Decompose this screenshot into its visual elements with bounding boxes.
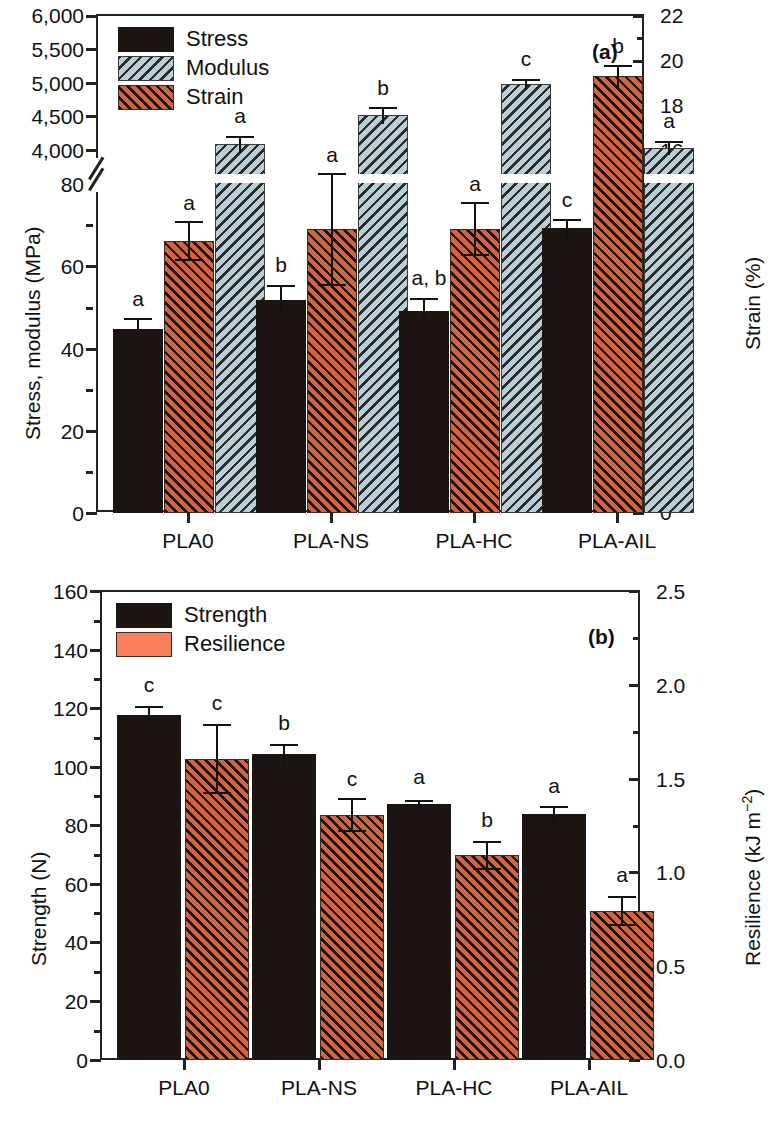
legend-label-strength: Strength <box>184 604 267 626</box>
panel-b-tick-major <box>90 883 101 886</box>
panel-a-axis-break-mark <box>80 158 114 192</box>
panel-b-right-tick-2-5: 2.5 <box>656 581 685 602</box>
errorbar-modulus-pla0 <box>226 136 254 153</box>
panel-b-tick-minor <box>94 620 101 623</box>
panel-b-tick-major <box>90 707 101 710</box>
panel-b-xlabel-plahc: PLA-HC <box>394 1077 514 1098</box>
panel-a-tick-major <box>86 512 97 515</box>
panel-a-xtick <box>187 512 190 523</box>
bar-modulus-plaail <box>644 148 694 513</box>
panel-b-xtick <box>318 1059 321 1070</box>
panel-a-xlabel-plahc: PLA-HC <box>414 530 534 551</box>
panel-b-right-tick-minor <box>633 637 640 640</box>
legend-swatch-strength-icon <box>116 603 172 628</box>
panel-a-tick-minor <box>86 224 93 227</box>
panel-a-left-tick-60: 60 <box>0 256 84 277</box>
panel-a-right-axis-title: Strain (%) <box>742 257 763 350</box>
panel-b-left-tick-40: 40 <box>0 932 88 953</box>
panel-b-tick-major <box>90 766 101 769</box>
panel-b-right-tick-0-0: 0.0 <box>656 1050 685 1071</box>
errorbar-modulus-plaail <box>655 141 683 155</box>
panel-b-right-tick-minor <box>633 731 640 734</box>
bar-strength-plaail <box>522 814 586 1060</box>
panel-b-tag: (b) <box>588 625 615 649</box>
panel-b-tick-major <box>90 824 101 827</box>
panel-b-right-tick-minor <box>633 825 640 828</box>
errorbar-stress-pla0 <box>124 318 152 340</box>
legend-swatch-strain-icon <box>118 85 174 110</box>
legend-label-modulus: Modulus <box>186 57 269 79</box>
panel-a-left-tick-0: 0 <box>0 503 84 524</box>
errorbar-strain-plahc <box>461 202 489 256</box>
errorbar-strain-plans <box>318 173 346 286</box>
bar-stress-plahc <box>399 311 449 513</box>
panel-b-tick-major <box>90 1000 101 1003</box>
panel-a-tick-major <box>86 82 97 85</box>
siglabel-strain-plahc: a <box>445 173 505 194</box>
siglabel-strength-pla0: c <box>119 674 179 695</box>
siglabel-strain-pla0: a <box>159 192 219 213</box>
legend-label-stress: Stress <box>186 28 248 50</box>
siglabel-resilience-plaail: a <box>592 864 652 885</box>
errorbar-resilience-pla0 <box>203 724 231 794</box>
siglabel-modulus-plahc: c <box>496 48 556 69</box>
panel-a-left-tick-5000: 5,000 <box>0 73 84 94</box>
panel-b-left-tick-140: 140 <box>0 640 88 661</box>
bar-strength-pla0 <box>117 715 181 1060</box>
errorbar-strain-plaail <box>604 65 632 87</box>
errorbar-stress-plans <box>267 285 295 313</box>
panel-a-left-tick-40: 40 <box>0 339 84 360</box>
legend-item-strength: Strength <box>116 602 286 628</box>
bar-stress-pla0 <box>113 329 163 513</box>
panel-b-right-axis-title-main: Resilience (kJ m <box>741 812 764 966</box>
panel-a-left-tick-4500: 4,500 <box>0 106 84 127</box>
panel-b: (b) Strength (N) Resilience (kJ m−2) 160… <box>0 566 784 1132</box>
errorbar-strength-pla0 <box>135 706 163 724</box>
panel-b-tick-major <box>90 941 101 944</box>
legend-item-stress: Stress <box>118 26 269 52</box>
panel-b-right-tick-1-0: 1.0 <box>656 862 685 883</box>
bar-strain-pla0 <box>164 241 214 513</box>
bar-resilience-pla0 <box>185 759 249 1060</box>
panel-a-right-tick-major <box>633 15 644 18</box>
errorbar-strain-pla0 <box>175 221 203 261</box>
panel-b-left-tick-0: 0 <box>0 1050 88 1071</box>
panel-a-xlabel-plaail: PLA-AIL <box>557 530 677 551</box>
siglabel-resilience-plahc: b <box>457 809 517 830</box>
panel-a-tick-minor <box>86 471 93 474</box>
siglabel-strength-plaail: a <box>524 775 584 796</box>
panel-b-left-tick-100: 100 <box>0 757 88 778</box>
siglabel-modulus-plaail: a <box>639 110 699 131</box>
panel-a-xlabel-pla0: PLA0 <box>128 530 248 551</box>
panel-b-tick-minor <box>94 678 101 681</box>
panel-b-tick-major <box>90 590 101 593</box>
panel-a-tick-major <box>86 149 97 152</box>
panel-b-xlabel-plans: PLA-NS <box>259 1077 379 1098</box>
figure-root: (a) Stress, modulus (MPa) Strain (%) 6,0… <box>0 0 784 1132</box>
siglabel-strain-plans: a <box>302 144 362 165</box>
siglabel-modulus-plans: b <box>353 77 413 98</box>
bar-resilience-plans <box>320 815 384 1060</box>
bar-stress-plaail <box>542 228 592 513</box>
panel-b-right-tick-major <box>629 590 640 593</box>
panel-b-xlabel-pla0: PLA0 <box>124 1077 244 1098</box>
errorbar-resilience-plaail <box>608 896 636 926</box>
panel-a-tick-minor <box>86 307 93 310</box>
errorbar-strength-plaail <box>540 806 568 822</box>
siglabel-modulus-pla0: a <box>210 105 270 126</box>
legend-swatch-resilience-icon <box>116 632 172 657</box>
siglabel-strain-plaail: b <box>588 35 648 56</box>
panel-a-right-tick-22: 22 <box>660 5 683 26</box>
panel-a-xtick <box>473 512 476 523</box>
panel-b-tick-minor <box>94 737 101 740</box>
panel-a: (a) Stress, modulus (MPa) Strain (%) 6,0… <box>0 0 784 566</box>
panel-b-right-tick-major <box>629 684 640 687</box>
bar-strength-plans <box>252 754 316 1060</box>
errorbar-strength-plahc <box>405 800 433 809</box>
panel-b-tick-major <box>90 1059 101 1062</box>
panel-a-tick-major <box>86 48 97 51</box>
bar-modulus-pla0-break-gap <box>215 174 265 183</box>
panel-b-tick-minor <box>94 1030 101 1033</box>
siglabel-strength-plans: b <box>254 712 314 733</box>
panel-b-right-axis-title-tail: ) <box>741 789 764 796</box>
